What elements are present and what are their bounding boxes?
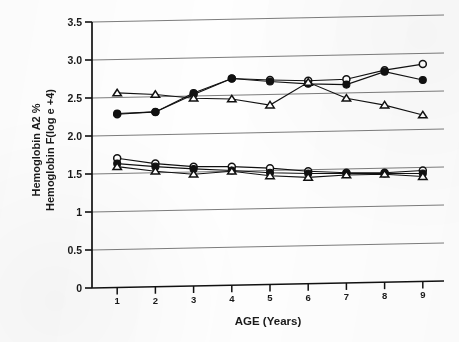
y-tick-group: 00.511.52.02.53.03.5 [67, 16, 92, 294]
gridline-group [92, 15, 444, 250]
x-axis-line [92, 281, 444, 288]
x-axis-tick-label: 5 [267, 292, 273, 303]
x-axis-title: AGE (Years) [235, 315, 302, 327]
y-axis-tick-label: 2.0 [67, 130, 82, 142]
data-point-filled-circle [114, 110, 121, 117]
y-axis-tick-label: 1.5 [67, 168, 82, 180]
data-point-open-triangle [113, 89, 121, 96]
series-line [117, 82, 423, 115]
data-point-filled-circle [343, 81, 350, 88]
x-axis-tick-label: 1 [115, 295, 121, 306]
x-axis-tick-label: 9 [420, 289, 425, 300]
y-axis-title-line2: Hemoglobin F(log e +4) [44, 89, 56, 211]
x-tick-group: 123456789 [115, 281, 426, 306]
y-axis-title-group: Hemoglobin A2 % Hemoglobin F(log e +4) [30, 89, 56, 211]
gridline [92, 15, 444, 22]
x-axis-tick-label: 4 [229, 293, 235, 304]
gridline [92, 243, 444, 250]
data-point-open-triangle [228, 95, 236, 102]
data-point-open-triangle [266, 101, 274, 108]
data-point-filled-circle [152, 108, 159, 115]
x-axis-tick-label: 3 [191, 294, 196, 305]
gridline [92, 129, 444, 136]
data-point-filled-circle [381, 68, 388, 75]
data-point-open-triangle [419, 111, 427, 118]
y-axis-tick-label: 2.5 [67, 92, 82, 104]
data-point-open-triangle [380, 101, 388, 108]
data-point-open-triangle [342, 95, 350, 102]
data-point-filled-circle [228, 75, 235, 82]
y-axis-tick-label: 3.5 [67, 16, 82, 28]
x-axis-tick-label: 6 [306, 292, 311, 303]
y-axis-tick-label: 0.5 [67, 244, 82, 256]
x-axis-tick-label: 7 [344, 291, 349, 302]
gridline [92, 205, 444, 212]
gridline [92, 53, 444, 60]
x-axis-tick-label: 8 [382, 290, 387, 301]
y-axis-tick-label: 0 [76, 282, 82, 294]
y-axis-tick-label: 3.0 [67, 54, 82, 66]
data-point-filled-circle [419, 77, 426, 84]
chart-figure: 00.511.52.02.53.03.5 123456789 AGE (Year… [0, 0, 459, 342]
data-point-open-circle [419, 61, 426, 68]
data-series-group [113, 61, 427, 181]
y-axis-tick-label: 1 [76, 206, 82, 218]
axis-group [92, 22, 444, 288]
data-point-filled-circle [267, 78, 274, 85]
hemoglobin-line-chart: 00.511.52.02.53.03.5 123456789 AGE (Year… [0, 0, 459, 342]
data-point-open-triangle [151, 91, 159, 98]
y-axis-title-line1: Hemoglobin A2 % [30, 103, 42, 196]
x-axis-tick-label: 2 [153, 295, 158, 306]
